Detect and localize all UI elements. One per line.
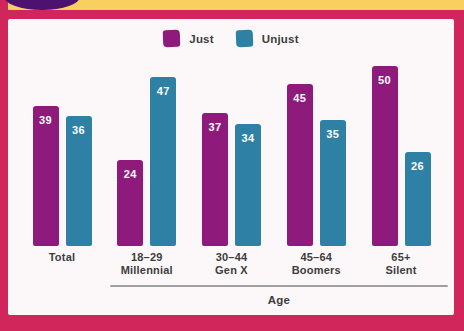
bar-value: 34 bbox=[242, 132, 255, 144]
bar-group: 244718–29Millennial bbox=[115, 60, 179, 279]
bar-pair: 2447 bbox=[117, 60, 176, 246]
bar-value: 36 bbox=[72, 124, 85, 136]
legend-item-unjust: Unjust bbox=[236, 30, 299, 47]
bar-group: 3936Total bbox=[30, 60, 94, 279]
category-label: Total bbox=[49, 251, 75, 279]
bar-value: 35 bbox=[326, 128, 339, 140]
just-bar: 50 bbox=[372, 66, 398, 246]
x-axis-line bbox=[110, 285, 448, 287]
unjust-bar: 35 bbox=[320, 120, 346, 246]
legend-label: Unjust bbox=[262, 33, 299, 45]
legend-item-just: Just bbox=[163, 30, 213, 47]
x-axis: Age bbox=[110, 285, 448, 306]
unjust-bar: 47 bbox=[150, 77, 176, 246]
bar-value: 24 bbox=[124, 168, 137, 180]
category-label: 45–64Boomers bbox=[292, 251, 341, 279]
bar-value: 45 bbox=[293, 92, 306, 104]
unjust-bar: 36 bbox=[66, 116, 92, 246]
category-label: 30–44Gen X bbox=[215, 251, 248, 279]
bar-value: 39 bbox=[39, 114, 52, 126]
bar-group: 502665+Silent bbox=[369, 60, 433, 279]
just-bar: 24 bbox=[117, 160, 143, 246]
bar-pair: 3734 bbox=[202, 60, 261, 246]
bar-pair: 4535 bbox=[287, 60, 346, 246]
chart-legend: JustUnjust bbox=[8, 30, 454, 47]
bar-group: 373430–44Gen X bbox=[200, 60, 264, 279]
legend-label: Just bbox=[189, 33, 213, 45]
plot-area: 3936Total244718–29Millennial373430–44Gen… bbox=[8, 60, 454, 279]
page: { "colors": { "just": "#8e1b7b", "unjust… bbox=[0, 0, 464, 331]
bar-pair: 3936 bbox=[33, 60, 92, 246]
bar-value: 37 bbox=[209, 121, 222, 133]
just-bar: 45 bbox=[287, 84, 313, 246]
just-swatch-icon bbox=[163, 30, 181, 48]
unjust-bar: 26 bbox=[405, 152, 431, 246]
category-label: 18–29Millennial bbox=[121, 251, 173, 279]
just-bar: 39 bbox=[33, 106, 59, 246]
unjust-bar: 34 bbox=[235, 124, 261, 246]
bar-pair: 5026 bbox=[372, 60, 431, 246]
just-bar: 37 bbox=[202, 113, 228, 246]
chart-panel: JustUnjust 3936Total244718–29Millennial3… bbox=[8, 19, 454, 315]
bar-value: 50 bbox=[378, 74, 391, 86]
unjust-swatch-icon bbox=[235, 30, 253, 48]
category-label: 65+Silent bbox=[385, 251, 416, 279]
bar-value: 26 bbox=[411, 160, 424, 172]
x-axis-title: Age bbox=[110, 294, 448, 306]
bar-group: 453545–64Boomers bbox=[284, 60, 348, 279]
bar-value: 47 bbox=[157, 85, 170, 97]
